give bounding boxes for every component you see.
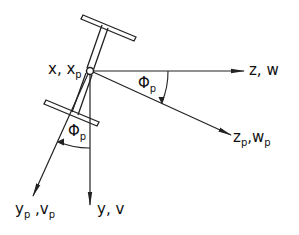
zp-axis-label: zp,wp [233,130,271,148]
origin-point [87,68,94,75]
angle-label-upper: Φp [138,76,156,94]
angle-label-lower: Φp [68,124,86,142]
origin-label: x, xp [48,62,82,80]
yp-axis-label: yp ,vp [15,202,55,220]
z-axis-label: z, w [249,63,279,78]
y-axis-label: y, v [97,202,124,217]
